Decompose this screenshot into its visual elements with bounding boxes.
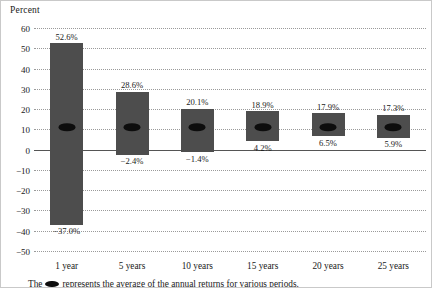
gridline: 40 [34,69,426,70]
bar-group[interactable]: 28.6%−2.4% [116,28,149,251]
gridline: 50 [34,48,426,49]
bar[interactable] [50,43,83,225]
bar-value-label-high: 17.9% [317,102,339,112]
bar-group[interactable]: 52.6%−37.0% [50,28,83,251]
gridline: 60 [34,28,426,29]
bar-value-label-high: 17.3% [382,103,404,113]
bar-value-label-high: 52.6% [56,32,78,42]
bar-value-label-high: 28.6% [121,80,143,90]
y-axis-tick-label: 0 [26,146,31,156]
x-axis-category-label: 5 years [119,261,146,271]
bar-group[interactable]: 17.3%5.9% [377,28,410,251]
y-axis-tick-label: 50 [21,44,30,54]
y-axis-tick-label: −40 [16,227,30,237]
bar-group[interactable]: 18.9%4.2% [246,28,279,251]
zero-line: 0 [34,150,426,151]
y-axis-tick-label: −30 [16,206,30,216]
average-marker-icon [58,124,75,132]
bar-value-label-high: 18.9% [252,100,274,110]
gridline: −50 [34,251,426,252]
y-axis-tick-label: −10 [16,166,30,176]
gridline: −20 [34,190,426,191]
x-axis-category-label: 1 year [55,261,78,271]
chart-figure: Percent 6050403020100−10−20−30−40−5052.6… [0,0,432,288]
plot-area: 6050403020100−10−20−30−40−5052.6%−37.0%2… [34,28,426,251]
average-marker-icon [254,124,271,132]
y-axis-title: Percent [10,5,40,15]
footnote-prefix: The [28,279,42,288]
x-axis-category-label: 25 years [378,261,409,271]
bar-value-label-low: 6.5% [319,138,337,148]
bar-value-label-high: 20.1% [186,97,208,107]
bar-value-label-low: −37.0% [53,226,80,236]
gridline: −40 [34,231,426,232]
average-marker-icon [189,124,206,132]
x-axis-category-label: 10 years [182,261,213,271]
y-axis-tick-label: −50 [16,247,30,257]
bar-value-label-low: 4.2% [254,143,272,153]
average-marker-icon [45,281,59,288]
y-axis-tick-label: −20 [16,186,30,196]
bar-value-label-low: −1.4% [186,154,209,164]
gridline: 30 [34,89,426,90]
y-axis-tick-label: 40 [21,65,30,75]
y-axis-tick-label: 20 [21,105,30,115]
chart-footnote: The represents the average of the annual… [28,279,299,288]
average-marker-icon [385,124,402,132]
bar-value-label-low: −2.4% [121,156,144,166]
footnote-suffix: represents the average of the annual ret… [62,279,298,288]
bar-group[interactable]: 17.9%6.5% [312,28,345,251]
average-marker-icon [320,124,337,132]
gridline: −10 [34,170,426,171]
y-axis-tick-label: 60 [21,24,30,34]
bar-group[interactable]: 20.1%−1.4% [181,28,214,251]
average-marker-icon [124,124,141,132]
x-axis-category-label: 20 years [312,261,343,271]
y-axis-tick-label: 30 [21,85,30,95]
bar-value-label-low: 5.9% [384,139,402,149]
gridline: −30 [34,210,426,211]
gridline: 10 [34,129,426,130]
y-axis-tick-label: 10 [21,125,30,135]
x-axis-category-label: 15 years [247,261,278,271]
gridline: 20 [34,109,426,110]
